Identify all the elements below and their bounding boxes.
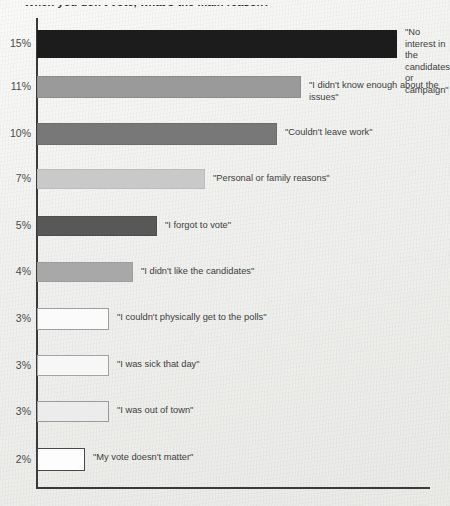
axis-tick-label: 7% (0, 172, 31, 184)
horizontal-axis-line (36, 487, 430, 489)
bar[interactable] (37, 355, 109, 376)
bar-value-label: "I didn't know enough about the issues" (309, 80, 450, 103)
bar-value-label: "I didn't like the candidates" (141, 266, 254, 278)
axis-tick-label: 15% (0, 37, 31, 49)
axis-tick-label: 3% (0, 312, 31, 324)
bar-value-label: "I was sick that day" (117, 359, 200, 371)
axis-tick-label: 4% (0, 265, 31, 277)
chart-title: When you don't vote, what's the main rea… (24, 0, 270, 8)
axis-tick-label: 11% (0, 80, 31, 92)
bar-value-label: "I couldn't physically get to the polls" (117, 312, 266, 324)
bar-chart: When you don't vote, what's the main rea… (0, 0, 450, 506)
bar[interactable] (37, 123, 277, 145)
bar[interactable] (37, 216, 157, 236)
axis-tick-label: 5% (0, 219, 31, 231)
bar[interactable] (37, 262, 133, 282)
bar[interactable] (37, 30, 397, 58)
bar-value-label: "Personal or family reasons" (213, 173, 330, 185)
bar[interactable] (37, 448, 85, 471)
axis-tick-label: 3% (0, 359, 31, 371)
bar-value-label: "I forgot to vote" (165, 220, 231, 232)
bar[interactable] (37, 401, 109, 422)
bar[interactable] (37, 169, 205, 189)
axis-tick-label: 10% (0, 127, 31, 139)
axis-tick-label: 3% (0, 405, 31, 417)
axis-tick-label: 2% (0, 453, 31, 465)
bar-value-label: "Couldn't leave work" (285, 127, 372, 139)
bar-value-label: "My vote doesn't matter" (93, 452, 193, 464)
bar[interactable] (37, 76, 301, 98)
bar-value-label: "I was out of town" (117, 405, 193, 417)
bar[interactable] (37, 308, 109, 330)
